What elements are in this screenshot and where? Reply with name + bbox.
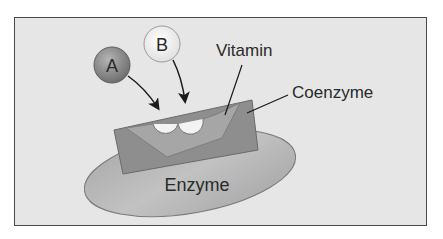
substrate-b-label: B <box>156 35 168 55</box>
coenzyme-label: Coenzyme <box>292 83 373 102</box>
enzyme-coenzyme-diagram: A B Vitamin Coenzyme Enzyme <box>0 0 443 239</box>
arrow-a-icon <box>128 76 158 108</box>
substrate-a-label: A <box>106 56 118 76</box>
vitamin-label: Vitamin <box>216 41 272 60</box>
enzyme-label: Enzyme <box>164 175 229 195</box>
arrow-b-icon <box>173 60 185 101</box>
coenzyme-leader-line <box>247 95 288 113</box>
